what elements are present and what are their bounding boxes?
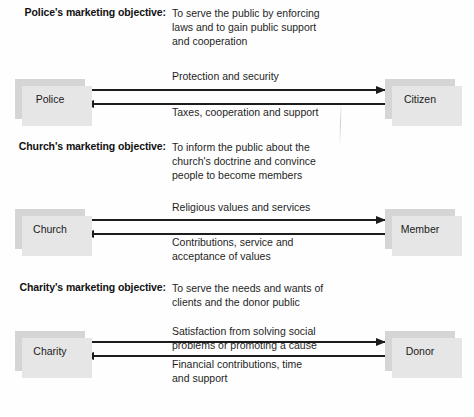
node-church: Church xyxy=(15,209,85,249)
node-label: Donor xyxy=(406,345,435,357)
arrow-label-line: Taxes, cooperation and support xyxy=(172,105,319,119)
objective-line: people to become members xyxy=(172,168,402,182)
arrow-label-line: Contributions, service and xyxy=(172,235,293,249)
objective-text-charity: To serve the needs and wants of clients … xyxy=(172,281,402,309)
objective-label-church: Church's marketing objective: xyxy=(0,140,166,152)
objective-line: laws and to gain public support xyxy=(172,20,402,34)
arrow-label-line: Protection and security xyxy=(172,69,279,83)
outbound-label-church: Religious values and services xyxy=(172,200,310,214)
node-charity: Charity xyxy=(15,331,85,371)
arrow-label-line: and support xyxy=(172,371,302,385)
objective-text-church: To inform the public about the church's … xyxy=(172,140,402,183)
objective-line: church's doctrine and convince xyxy=(172,154,402,168)
node-citizen: Citizen xyxy=(385,79,455,119)
arrow-label-line: Religious values and services xyxy=(172,200,310,214)
node-label: Police xyxy=(36,93,65,105)
node-label: Church xyxy=(33,223,67,235)
inbound-label-charity: Financial contributions, time and suppor… xyxy=(172,357,302,385)
arrow-label-line: Financial contributions, time xyxy=(172,357,302,371)
objective-text-police: To serve the public by enforcing laws an… xyxy=(172,6,402,49)
arrow-label-line: acceptance of values xyxy=(172,249,293,263)
node-member: Member xyxy=(385,209,455,249)
inbound-label-police: Taxes, cooperation and support xyxy=(172,105,319,119)
arrow-outbound-police xyxy=(85,89,385,91)
node-label: Member xyxy=(401,223,440,235)
objective-line: clients and the donor public xyxy=(172,295,402,309)
objective-line: To serve the needs and wants of xyxy=(172,281,402,295)
objective-line: To serve the public by enforcing xyxy=(172,6,402,20)
outbound-label-police: Protection and security xyxy=(172,69,279,83)
inbound-label-church: Contributions, service and acceptance of… xyxy=(172,235,293,263)
outbound-label-charity: Satisfaction from solving social problem… xyxy=(172,324,317,352)
node-donor: Donor xyxy=(385,331,455,371)
objective-label-charity: Charity's marketing objective: xyxy=(0,281,166,293)
arrow-label-line: Satisfaction from solving social xyxy=(172,324,317,338)
node-label: Citizen xyxy=(404,93,436,105)
objective-line: and cooperation xyxy=(172,34,402,48)
objective-label-police: Police's marketing objective: xyxy=(0,6,166,18)
node-police: Police xyxy=(15,79,85,119)
node-label: Charity xyxy=(33,345,66,357)
objective-line: To inform the public about the xyxy=(172,140,402,154)
arrow-label-line: problems or promoting a cause xyxy=(172,338,317,352)
arrow-outbound-church xyxy=(85,219,385,221)
diagram-canvas: Police's marketing objective: To serve t… xyxy=(0,0,474,417)
